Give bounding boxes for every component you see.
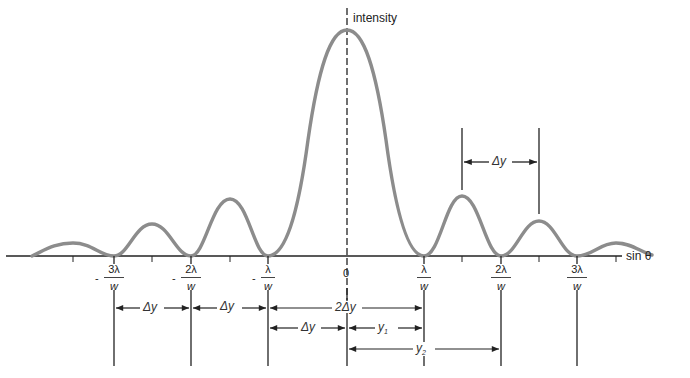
tick-label-neg-1: - λ w xyxy=(261,264,275,292)
tick-label-neg-2: - 2λ w xyxy=(181,264,201,292)
left-inner-spacing-label: Δy xyxy=(217,300,237,312)
origin-label: 0 xyxy=(343,268,349,279)
tick-label-neg-3: - 3λ w xyxy=(104,264,124,292)
minor-ticks xyxy=(73,256,616,262)
diffraction-diagram: intensity sin θ 0 - 3λ w - 2λ w - λ w λ … xyxy=(0,0,690,378)
intensity-curve xyxy=(32,30,652,256)
y-axis-label: intensity xyxy=(353,12,397,24)
half-central-label: Δy xyxy=(298,321,318,333)
diagram-canvas xyxy=(0,0,690,378)
peak-spacing-label: Δy xyxy=(489,155,509,167)
tick-label-pos-1: λ w xyxy=(417,264,431,292)
x-axis-label: sin θ xyxy=(626,250,651,262)
tick-label-pos-2: 2λ w xyxy=(491,264,511,292)
left-outer-spacing-label: Δy xyxy=(140,301,160,313)
y1-label: y1 xyxy=(375,321,391,335)
y2-label: y2 xyxy=(413,342,429,356)
peak-spacing-dimension xyxy=(462,128,539,214)
tick-label-pos-3: 3λ w xyxy=(567,264,587,292)
central-width-label: 2Δy xyxy=(332,301,359,313)
